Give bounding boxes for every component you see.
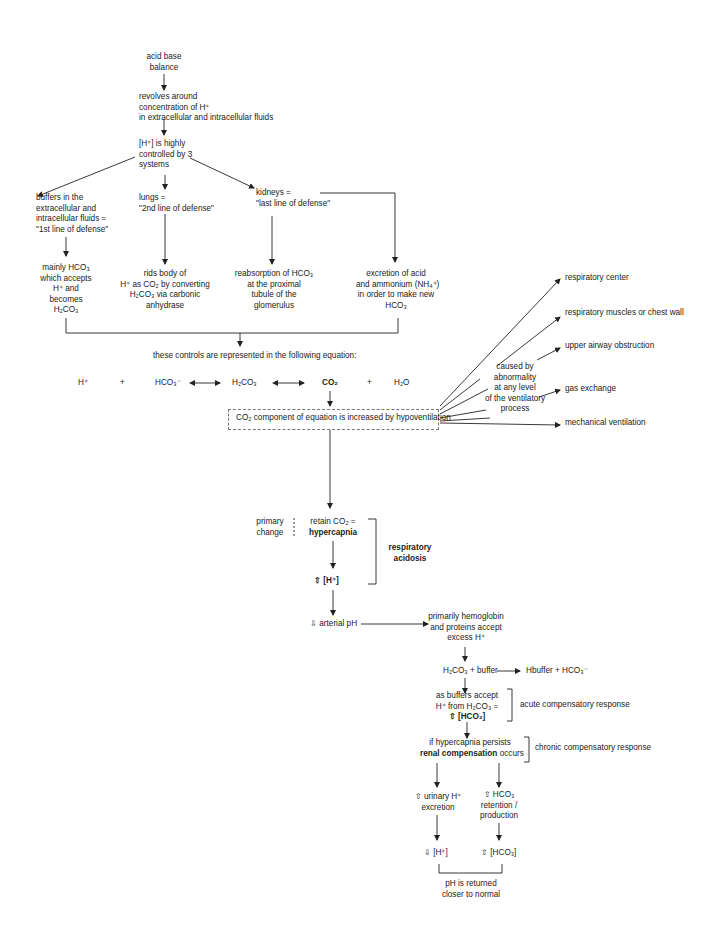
node-buffers-first-line: buffers in the extracellular and intrace…	[36, 193, 108, 235]
connector-lines	[0, 0, 704, 944]
node-hco3-retention: ⇧ HCO₃ retention / production	[479, 790, 519, 822]
cause-gas-exchange: gas exchange	[565, 384, 616, 395]
node-excretion-acid: excretion of acid and ammonium (NH₄⁺) in…	[356, 269, 436, 311]
equation-plus-1: +	[120, 378, 125, 389]
node-h-controlled: [H⁺] is highly controlled by 3 systems	[139, 139, 192, 171]
buffer-reaction-left: H₂CO₃ + buffer	[443, 666, 498, 677]
node-kidneys-last-line: kidneys = "last line of defense"	[256, 188, 330, 209]
node-rids-body: rids body of H⁺ as CO₂ by converting H₂C…	[120, 269, 210, 311]
node-mainly-hco3: mainly HCO₃ which accepts H⁺ and becomes…	[36, 263, 96, 316]
cause-mechanical-ventilation: mechanical ventilation	[565, 418, 646, 429]
node-acid-base-balance: acid base balance	[134, 52, 194, 73]
node-ph-returned: pH is returned closer to normal	[436, 879, 506, 900]
node-arterial-ph: ⇩ arterial pH	[310, 619, 357, 630]
buffer-reaction-right: Hbuffer + HCO₃⁻	[526, 666, 588, 677]
node-reabsorption-hco3: reabsorption of HCO₃ at the proximal tub…	[232, 269, 316, 311]
node-acute-buffers: as buffers accept H⁺ from H₂CO₃ = ⇧ [HCO…	[430, 691, 504, 723]
node-retain-co2: retain CO₂ = hypercapnia	[303, 517, 363, 538]
equation-intro: these controls are represented in the fo…	[153, 351, 356, 362]
hypoventilation-text: CO₂ component of equation is increased b…	[236, 413, 451, 424]
equation-term-hco3: HCO₃⁻	[155, 378, 181, 389]
node-h-decreased: ⇩ [H⁺]	[424, 848, 448, 859]
equation-term-h: H⁺	[78, 378, 88, 389]
caused-by-label: caused by abnormality at any level of th…	[480, 362, 550, 415]
equation-term-h2co3: H₂CO₃	[232, 378, 257, 389]
cause-upper-airway: upper airway obstruction	[565, 341, 654, 352]
respiratory-acidosis-label: respiratory acidosis	[380, 543, 440, 564]
chronic-compensatory-label: chronic compensatory response	[535, 743, 651, 754]
equation-term-h2o: H₂O	[394, 378, 409, 389]
node-lungs-second-line: lungs = "2nd line of defense"	[139, 193, 214, 214]
node-revolves-around: revolves around concentration of H⁺ in e…	[139, 92, 273, 124]
node-renal-compensation: if hypercapnia persists renal compensati…	[420, 738, 520, 759]
node-increased-h: ⇧ [H⁺]	[314, 576, 339, 587]
equation-plus-2: +	[367, 378, 372, 389]
node-hemoglobin: primarily hemoglobin and proteins accept…	[425, 612, 507, 644]
equation-term-co2: CO₂	[322, 378, 338, 389]
cause-respiratory-muscles: respiratory muscles or chest wall	[565, 308, 684, 319]
node-hco3-increased: ⇧ [HCO₃]	[481, 848, 516, 859]
acute-compensatory-label: acute compensatory response	[520, 700, 630, 711]
primary-change-label: primary change	[250, 517, 290, 538]
cause-respiratory-center: respiratory center	[565, 273, 629, 284]
respiratory-acidosis-diagram: acid base balance revolves around concen…	[0, 0, 704, 944]
node-urinary-h-excretion: ⇧ urinary H⁺ excretion	[413, 792, 463, 813]
